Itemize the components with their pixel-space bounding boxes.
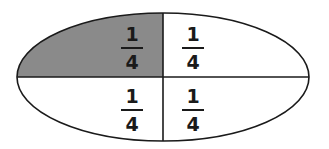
fraction-bottom-right: 1 4 [178,87,208,134]
numerator: 1 [117,87,147,106]
fraction-bar [182,109,204,111]
denominator: 4 [178,53,208,72]
numerator: 1 [178,87,208,106]
ellipse-diagram [0,0,329,149]
denominator: 4 [117,115,147,134]
fraction-bar [182,47,204,49]
fraction-top-left: 1 4 [117,25,147,72]
numerator: 1 [117,25,147,44]
denominator: 4 [178,115,208,134]
fraction-bar [121,109,143,111]
fraction-bar [121,47,143,49]
denominator: 4 [117,53,147,72]
fraction-bottom-left: 1 4 [117,87,147,134]
numerator: 1 [178,25,208,44]
fraction-top-right: 1 4 [178,25,208,72]
